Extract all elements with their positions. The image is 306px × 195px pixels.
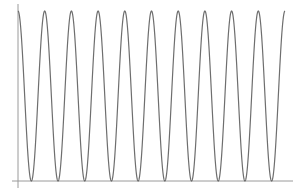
oscillation-curve [18, 11, 285, 181]
chart-canvas [0, 0, 306, 195]
